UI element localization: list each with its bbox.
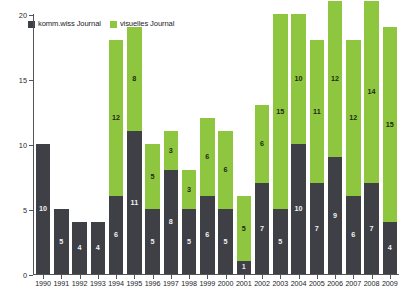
bar-group: 117 xyxy=(310,40,325,274)
x-axis-label: 1997 xyxy=(163,279,179,288)
bar-value-label: 6 xyxy=(205,153,209,160)
bar-value-label: 6 xyxy=(260,140,264,147)
bar-value-label: 7 xyxy=(260,225,264,232)
bar-chart: komm.wiss Journalvisuelles Journal 05101… xyxy=(0,0,402,301)
bar-segment-komm-wiss-journal: 10 xyxy=(291,144,306,274)
x-axis-label: 1999 xyxy=(199,279,215,288)
bar-group: 38 xyxy=(164,131,179,274)
bar-segment-komm-wiss-journal: 11 xyxy=(127,131,142,274)
y-axis-tick xyxy=(29,275,33,276)
bar-value-label: 5 xyxy=(151,238,155,245)
bar-group: 51 xyxy=(237,196,252,274)
bar-value-label: 4 xyxy=(96,244,100,251)
y-axis-label: 0 xyxy=(23,270,27,279)
bar-value-label: 5 xyxy=(278,238,282,245)
x-axis-label: 1993 xyxy=(90,279,106,288)
bar-segment-visuelles-journal: 11 xyxy=(310,40,325,183)
bar-group: 811 xyxy=(127,27,142,274)
bar-value-label: 14 xyxy=(368,88,376,95)
bar-value-label: 8 xyxy=(132,75,136,82)
bar-group: 66 xyxy=(200,118,215,274)
bar-segment-visuelles-journal: 3 xyxy=(164,131,179,170)
bar-value-label: 6 xyxy=(224,166,228,173)
bar-segment-komm-wiss-journal: 7 xyxy=(255,183,270,274)
bar-segment-visuelles-journal: 6 xyxy=(200,118,215,196)
bar-value-label: 10 xyxy=(295,205,303,212)
bar-value-label: 5 xyxy=(242,225,246,232)
bar-group: 126 xyxy=(109,40,124,274)
x-axis-label: 1992 xyxy=(72,279,88,288)
bar-value-label: 11 xyxy=(313,108,321,115)
x-axis-label: 2007 xyxy=(345,279,361,288)
y-axis-label: 20 xyxy=(19,10,27,19)
bar-segment-visuelles-journal: 6 xyxy=(218,131,233,209)
x-axis-label: 1998 xyxy=(181,279,197,288)
bar-group: 1010 xyxy=(291,14,306,274)
bar-value-label: 5 xyxy=(224,238,228,245)
bar-segment-komm-wiss-journal: 5 xyxy=(145,209,160,274)
bar-value-label: 11 xyxy=(131,199,139,206)
bar-group: 4 xyxy=(72,222,87,274)
bar-group: 55 xyxy=(145,144,160,274)
bar-value-label: 10 xyxy=(295,75,303,82)
bar-segment-komm-wiss-journal: 6 xyxy=(346,196,361,274)
x-axis-label: 2008 xyxy=(364,279,380,288)
bar-group: 10 xyxy=(36,144,51,274)
bar-group: 67 xyxy=(255,105,270,274)
x-axis-label: 1994 xyxy=(108,279,124,288)
bar-segment-komm-wiss-journal: 10 xyxy=(36,144,51,274)
bar-segment-visuelles-journal: 3 xyxy=(182,170,197,209)
bar-value-label: 6 xyxy=(351,231,355,238)
bar-segment-visuelles-journal: 12 xyxy=(109,40,124,196)
bar-value-label: 10 xyxy=(39,205,47,212)
y-axis-label: 10 xyxy=(19,140,27,149)
bar-group: 126 xyxy=(346,40,361,274)
bar-value-label: 4 xyxy=(78,244,82,251)
bar-segment-komm-wiss-journal: 6 xyxy=(109,196,124,274)
bar-segment-komm-wiss-journal: 4 xyxy=(72,222,87,274)
bar-value-label: 5 xyxy=(187,238,191,245)
y-axis-tick xyxy=(29,15,33,16)
y-axis-tick xyxy=(29,145,33,146)
bar-value-label: 4 xyxy=(388,244,392,251)
x-axis-label: 1996 xyxy=(145,279,161,288)
bar-segment-visuelles-journal: 14 xyxy=(364,1,379,183)
bar-segment-visuelles-journal: 10 xyxy=(291,14,306,144)
x-axis-label: 2006 xyxy=(327,279,343,288)
x-axis-label: 1991 xyxy=(53,279,69,288)
bar-group: 154 xyxy=(383,27,398,274)
bar-group: 5 xyxy=(54,209,69,274)
bar-segment-komm-wiss-journal: 5 xyxy=(54,209,69,274)
x-axis-label: 1995 xyxy=(126,279,142,288)
x-axis-label: 2000 xyxy=(218,279,234,288)
bar-value-label: 12 xyxy=(349,114,357,121)
bar-value-label: 9 xyxy=(333,212,337,219)
plot-area: 05101520 1054412681155383566655167155101… xyxy=(33,14,399,275)
y-axis-label: 15 xyxy=(19,75,27,84)
bar-segment-komm-wiss-journal: 7 xyxy=(364,183,379,274)
bar-segment-visuelles-journal: 8 xyxy=(127,27,142,131)
bar-value-label: 1 xyxy=(242,264,246,270)
bar-value-label: 12 xyxy=(112,114,120,121)
x-axis-label: 2001 xyxy=(236,279,252,288)
x-axis-label: 1990 xyxy=(35,279,51,288)
bar-value-label: 5 xyxy=(151,173,155,180)
y-axis-tick xyxy=(29,210,33,211)
bar-value-label: 15 xyxy=(276,108,284,115)
x-axis-label: 2004 xyxy=(291,279,307,288)
bar-segment-komm-wiss-journal: 6 xyxy=(200,196,215,274)
bar-group: 4 xyxy=(91,222,106,274)
bar-segment-komm-wiss-journal: 5 xyxy=(182,209,197,274)
x-axis-label: 2009 xyxy=(382,279,398,288)
bar-value-label: 6 xyxy=(114,231,118,238)
bar-group: 65 xyxy=(218,131,233,274)
bar-group: 147 xyxy=(364,1,379,274)
bar-value-label: 7 xyxy=(370,225,374,232)
bar-value-label: 8 xyxy=(169,218,173,225)
bar-segment-visuelles-journal: 6 xyxy=(255,105,270,183)
bar-segment-komm-wiss-journal: 4 xyxy=(383,222,398,274)
x-axis-label: 2005 xyxy=(309,279,325,288)
bar-segment-visuelles-journal: 12 xyxy=(328,1,343,157)
bar-value-label: 5 xyxy=(59,238,63,245)
x-axis-label: 2002 xyxy=(254,279,270,288)
